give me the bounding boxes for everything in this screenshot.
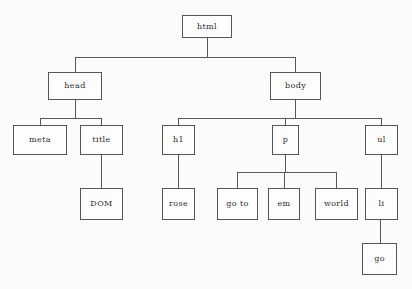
edge-ul-drop — [381, 118, 382, 125]
edge-world-drop — [336, 172, 337, 188]
node-body[interactable]: body — [270, 72, 321, 100]
node-head[interactable]: head — [48, 72, 102, 100]
node-ul[interactable]: ul — [365, 125, 398, 155]
edge-head-stem — [75, 100, 76, 118]
node-label-ul: ul — [377, 136, 386, 144]
node-html[interactable]: html — [182, 15, 232, 38]
edge-h1-rose-link — [178, 155, 179, 188]
node-goto[interactable]: go to — [217, 188, 258, 220]
node-label-go: go — [374, 255, 385, 263]
node-label-body: body — [285, 82, 306, 90]
node-p[interactable]: p — [272, 125, 299, 155]
edge-h1-drop — [178, 118, 179, 125]
node-title[interactable]: title — [80, 125, 123, 155]
node-label-head: head — [64, 82, 85, 90]
node-label-em: em — [277, 200, 290, 208]
edge-title-drop — [101, 118, 102, 125]
node-label-goto: go to — [226, 200, 249, 208]
dom-tree-diagram: htmlheadbodymetatitleh1pulDOMrosego toem… — [0, 0, 412, 289]
node-h1[interactable]: h1 — [162, 125, 195, 155]
node-label-title: title — [92, 136, 110, 144]
node-label-meta: meta — [29, 136, 51, 144]
node-label-h1: h1 — [173, 136, 184, 144]
edge-ul-li-link — [381, 155, 382, 188]
edge-p-drop — [285, 118, 286, 125]
node-label-li: li — [379, 200, 385, 208]
node-label-rose: rose — [169, 200, 188, 208]
edge-goto-drop — [237, 172, 238, 188]
edge-html-stem — [207, 38, 208, 57]
node-meta[interactable]: meta — [13, 125, 67, 155]
edge-p-children-bar — [237, 172, 337, 173]
node-rose[interactable]: rose — [162, 188, 195, 220]
node-world[interactable]: world — [315, 188, 358, 220]
node-label-p: p — [283, 136, 289, 144]
edge-body-stem — [295, 100, 296, 118]
edge-li-go-link — [380, 220, 381, 243]
node-label-html: html — [197, 22, 217, 30]
edge-meta-drop — [40, 118, 41, 125]
node-go[interactable]: go — [362, 243, 397, 275]
edge-head-drop — [75, 57, 76, 72]
node-label-world: world — [324, 200, 349, 208]
edge-html-children-bar — [75, 57, 296, 58]
node-dom[interactable]: DOM — [80, 188, 123, 220]
edge-em-drop — [284, 172, 285, 188]
edge-body-children-bar — [178, 118, 382, 119]
edge-body-drop — [295, 57, 296, 72]
edge-p-stem — [285, 155, 286, 172]
edge-title-dom-link — [101, 155, 102, 188]
node-li[interactable]: li — [365, 188, 398, 220]
node-label-dom: DOM — [90, 200, 112, 208]
node-em[interactable]: em — [268, 188, 300, 220]
edge-head-children-bar — [40, 118, 102, 119]
